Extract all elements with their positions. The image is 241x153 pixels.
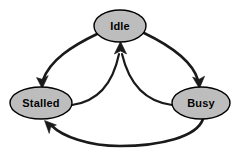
node-idle[interactable]	[94, 10, 146, 42]
edge-idle-to-busy-line	[144, 33, 198, 80]
node-stalled[interactable]	[10, 87, 72, 119]
node-busy[interactable]	[172, 87, 230, 119]
node-busy-shape	[172, 87, 230, 119]
edge-idle-to-busy[interactable]	[144, 33, 205, 89]
edge-busy-to-stalled-line	[52, 119, 203, 146]
edge-stalled-to-idle-line	[72, 54, 119, 105]
diagram-svg	[0, 0, 241, 153]
edge-busy-to-idle-line	[122, 54, 172, 105]
node-idle-shape	[94, 10, 146, 42]
edge-busy-to-idle[interactable]	[122, 54, 172, 105]
edge-to-idle-arrowhead	[114, 42, 126, 55]
edge-idle-to-stalled-line	[43, 34, 97, 80]
edge-idle-to-stalled[interactable]	[37, 34, 97, 89]
node-stalled-shape	[10, 87, 72, 119]
edge-stalled-to-idle[interactable]	[72, 54, 119, 105]
state-diagram: Idle Stalled Busy	[0, 0, 241, 153]
edge-busy-to-stalled[interactable]	[45, 119, 204, 146]
edge-to-idle-arrowhead-group	[114, 42, 126, 55]
